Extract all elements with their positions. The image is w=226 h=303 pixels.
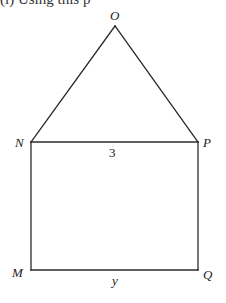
vertex-label-P: P (202, 135, 211, 150)
side-label-NP: 3 (109, 145, 116, 160)
vertex-label-O: O (110, 8, 120, 23)
segment-OP (115, 26, 198, 142)
vertex-label-Q: Q (203, 267, 213, 282)
vertex-label-M: M (11, 265, 24, 280)
vertex-label-N: N (14, 135, 25, 150)
side-label-MQ: y (110, 273, 118, 288)
segment-ON (31, 26, 115, 142)
geometry-diagram: O N P M Q 3 y (0, 0, 226, 303)
